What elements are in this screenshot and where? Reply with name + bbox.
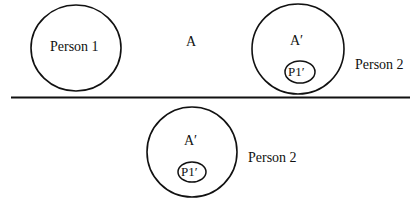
person2-circle-top [252,4,344,94]
person2-label-top: Person 2 [355,57,404,73]
person2-circle-bottom [147,107,237,197]
p1-label-bottom: P1′ [181,164,198,180]
person2-label-bottom: Person 2 [248,150,297,166]
person1-label: Person 1 [50,39,99,55]
p1-label-top: P1′ [288,64,305,80]
inner-a-label-top: A′ [290,33,303,49]
a-label: A [186,34,196,50]
diagram-canvas [0,0,420,209]
inner-a-label-bottom: A′ [184,133,197,149]
